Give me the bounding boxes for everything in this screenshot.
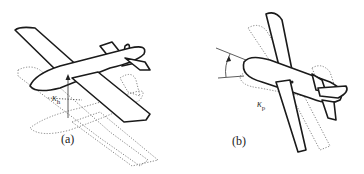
airplane-b — [243, 13, 347, 152]
reference-line-upper — [216, 48, 246, 60]
diagram-canvas — [0, 0, 364, 174]
kappa-h-label: κh — [52, 92, 60, 106]
airplane-a — [15, 27, 150, 122]
kappa-p-label: κp — [257, 98, 265, 112]
panel-label-a: (a) — [61, 132, 74, 147]
panel-label-b: (b) — [232, 134, 246, 149]
